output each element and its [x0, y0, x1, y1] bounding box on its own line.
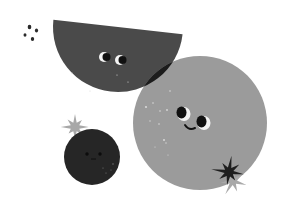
speckle	[152, 102, 154, 104]
speckle	[167, 154, 168, 155]
speckle	[71, 72, 72, 73]
speckle	[159, 110, 161, 112]
dot	[28, 25, 32, 29]
speckle	[112, 163, 113, 164]
illustration-svg	[0, 0, 281, 210]
speckle	[89, 90, 90, 91]
speckle	[105, 172, 106, 173]
speckle	[111, 170, 112, 171]
small-circle-body	[64, 129, 120, 185]
speckle	[165, 142, 166, 143]
speckle	[169, 90, 171, 92]
speckle	[166, 109, 168, 111]
small-eye-left	[85, 152, 88, 155]
speckle	[145, 106, 147, 108]
speckle	[154, 146, 155, 147]
dot	[24, 33, 27, 37]
dot	[35, 29, 38, 33]
dot	[31, 37, 34, 41]
speckle	[102, 167, 103, 168]
speckle	[149, 120, 150, 121]
speckle	[127, 81, 128, 82]
small-eye-right	[98, 152, 101, 155]
illustration-canvas	[0, 0, 281, 210]
speckle	[116, 74, 117, 75]
dot-cluster	[24, 25, 39, 41]
speckle	[158, 123, 160, 125]
small-circle-character	[64, 129, 120, 185]
speckle	[163, 139, 165, 141]
